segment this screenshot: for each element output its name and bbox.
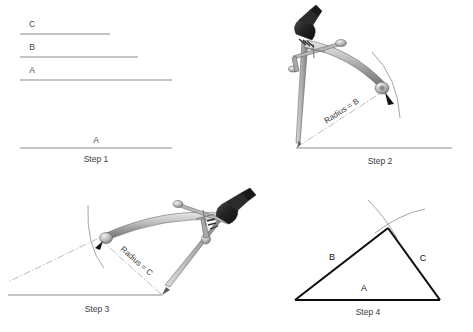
step3-compass-needle-leg	[162, 213, 227, 295]
given-segment-b-label: B	[29, 42, 35, 52]
given-segment-b: B	[20, 42, 138, 57]
given-segment-a-label: A	[29, 65, 35, 75]
step3-pencil-collar	[100, 233, 113, 244]
step1-base-segment: A	[20, 135, 172, 148]
given-segment-c-label: C	[29, 19, 35, 29]
construction-diagram: C B A A Step 1 Radius = B	[0, 0, 473, 332]
step2-adjust-knob-right	[336, 40, 347, 47]
step2-pencil-leg-body	[304, 40, 386, 89]
step3-adjust-knob-left	[173, 201, 183, 208]
step2-radius-line	[297, 87, 390, 147]
step3-needle-leg-body	[165, 213, 227, 287]
step2-panel: Radius = B	[289, 5, 453, 166]
step4-arc-from-right	[375, 209, 425, 233]
step1-base-label: A	[93, 135, 99, 145]
step2-caption: Step 2	[368, 156, 393, 166]
triangle-side-b	[295, 228, 388, 300]
step3-pencil-tip-arrow	[95, 241, 103, 250]
step2-pencil-collar-hole	[379, 85, 384, 90]
step3-caption: Step 3	[85, 304, 110, 314]
step4-caption: Step 4	[356, 307, 381, 317]
step3-compass	[95, 188, 256, 295]
step1-panel: C B A A Step 1	[20, 19, 172, 164]
step3-panel: Radius = C	[8, 188, 256, 314]
figure-root: C B A A Step 1 Radius = B	[0, 0, 473, 332]
step2-radius-label: Radius = B	[323, 96, 361, 125]
triangle-label-a: A	[361, 283, 367, 293]
step3-pencil-holder	[95, 233, 113, 251]
step3-radius-label: Radius = C	[119, 245, 155, 278]
step2-compass-pencil-leg	[304, 40, 386, 89]
triangle-side-c	[388, 228, 440, 300]
triangle-label-b: B	[329, 252, 335, 262]
step3-radius-line	[102, 241, 161, 294]
step1-caption: Step 1	[84, 154, 109, 164]
given-segment-a: A	[20, 65, 172, 80]
step2-pencil-holder	[375, 82, 394, 105]
given-segment-c: C	[20, 19, 110, 34]
triangle-label-c: C	[420, 253, 427, 263]
step4-panel: A B C Step 4	[295, 200, 440, 317]
step2-pencil-tip-arrow	[385, 92, 394, 105]
step3-compass-handle	[207, 188, 256, 229]
step3-radius-extension	[8, 239, 97, 282]
step2-compass	[289, 5, 395, 148]
step3-needle-point	[162, 287, 170, 295]
step4-triangle	[295, 228, 440, 300]
